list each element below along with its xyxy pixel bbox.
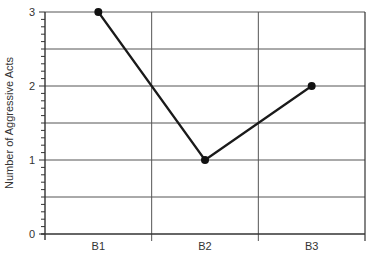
y-tick-label: 1	[29, 154, 35, 166]
y-axis-title: Number of Aggressive Acts	[3, 56, 15, 189]
chart-grid	[45, 12, 365, 241]
data-point-marker	[94, 8, 102, 16]
x-tick-label: B3	[305, 240, 318, 252]
x-axis-ticks: B1B2B3	[92, 240, 319, 252]
data-point-marker	[201, 156, 209, 164]
chart-axes	[41, 12, 365, 240]
y-tick-label: 0	[29, 228, 35, 240]
y-axis-ticks: 0123	[29, 6, 45, 240]
x-tick-label: B2	[198, 240, 211, 252]
data-point-marker	[308, 82, 316, 90]
x-tick-label: B1	[92, 240, 105, 252]
line-chart: 0123 B1B2B3 Number of Aggressive Acts	[0, 0, 370, 272]
y-tick-label: 2	[29, 80, 35, 92]
y-tick-label: 3	[29, 6, 35, 18]
